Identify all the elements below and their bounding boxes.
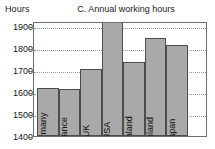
bars-group: GermanyFranceUKUSAFinlandPolandJapan: [34, 23, 206, 136]
y-axis-tick-mark: [28, 93, 32, 94]
y-axis-tick-mark: [28, 27, 32, 28]
bar-usa[interactable]: USA: [102, 22, 124, 136]
bar-category-label: France: [60, 117, 69, 137]
bar-japan[interactable]: Japan: [166, 45, 188, 136]
y-axis-tick-mark: [28, 71, 32, 72]
bar-germany[interactable]: Germany: [37, 88, 59, 136]
y-axis-unit-label: Hours: [5, 4, 30, 14]
y-axis-tick-mark: [28, 115, 32, 116]
bar-poland[interactable]: Poland: [145, 38, 167, 136]
bar-category-label: UK: [82, 125, 91, 137]
bar-uk[interactable]: UK: [80, 69, 102, 136]
bar-finland[interactable]: Finland: [123, 62, 145, 136]
y-axis-tick-mark: [28, 137, 32, 138]
bar-category-label: Germany: [39, 112, 48, 137]
bar-chart: Hours C. Annual working hours 1400150016…: [0, 0, 215, 149]
y-axis-tick-mark: [28, 49, 32, 50]
plot-area: GermanyFranceUKUSAFinlandPolandJapan: [33, 22, 207, 137]
bar-category-label: USA: [103, 122, 112, 137]
bar-category-label: Finland: [125, 116, 134, 137]
bar-category-label: Poland: [146, 117, 155, 137]
bar-category-label: Japan: [168, 119, 177, 137]
bar-france[interactable]: France: [59, 89, 81, 136]
y-axis: 140015001600170018001900: [0, 22, 33, 137]
chart-title: C. Annual working hours: [42, 4, 210, 14]
